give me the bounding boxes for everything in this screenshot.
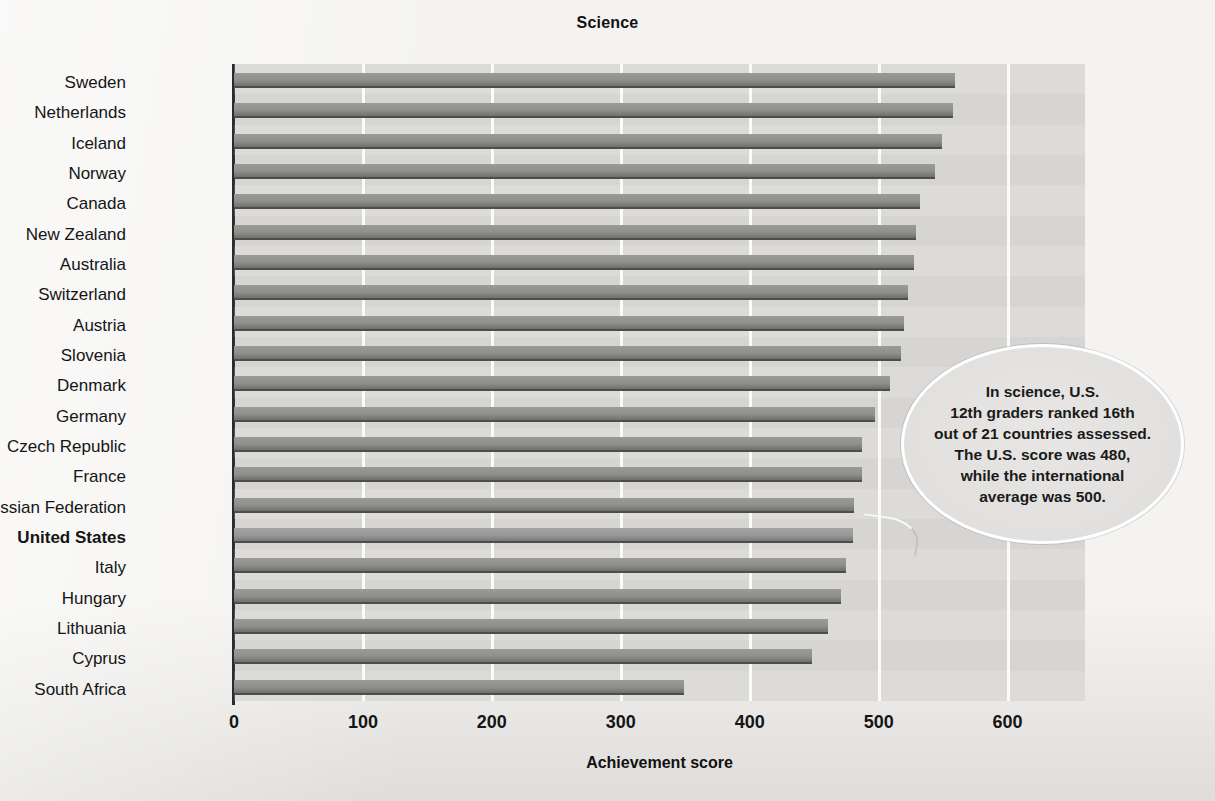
bar-iceland[interactable] [234, 134, 942, 149]
bar-lithuania[interactable] [234, 619, 828, 634]
bar-france[interactable] [234, 467, 862, 482]
bar-australia[interactable] [234, 255, 914, 270]
bar-netherlands[interactable] [234, 103, 953, 118]
y-axis-label-germany: Germany [0, 408, 126, 425]
bar-czech-republic[interactable] [234, 437, 862, 452]
chart-page: Science Achievement score In science, U.… [0, 0, 1215, 801]
x-axis-tick-500: 500 [839, 712, 919, 733]
bar-norway[interactable] [234, 164, 935, 179]
bar-canada[interactable] [234, 194, 920, 209]
y-axis-label-sweden: Sweden [0, 74, 126, 91]
us-callout-text: In science, U.S.12th graders ranked 16th… [916, 381, 1169, 507]
x-axis-tick-300: 300 [581, 712, 661, 733]
y-axis-label-italy: Italy [0, 559, 126, 576]
y-axis-label-denmark: Denmark [0, 377, 126, 394]
y-axis-label-norway: Norway [0, 165, 126, 182]
y-axis-label-netherlands: Netherlands [0, 104, 126, 121]
y-axis-label-new-zealand: New Zealand [0, 226, 126, 243]
y-axis-label-south-africa: South Africa [0, 681, 126, 698]
x-axis-tick-400: 400 [710, 712, 790, 733]
y-axis-label-austria: Austria [0, 317, 126, 334]
bar-italy[interactable] [234, 558, 846, 573]
bar-new-zealand[interactable] [234, 225, 916, 240]
x-axis-tick-200: 200 [452, 712, 532, 733]
chart-title: Science [0, 14, 1215, 32]
x-axis-tick-600: 600 [968, 712, 1048, 733]
us-callout-line: out of 21 countries assessed. [934, 423, 1151, 444]
y-axis-label-cyprus: Cyprus [0, 650, 126, 667]
bar-denmark[interactable] [234, 376, 890, 391]
y-axis-label-iceland: Iceland [0, 135, 126, 152]
us-callout-line: while the international [934, 465, 1151, 486]
us-callout-line: The U.S. score was 480, [934, 444, 1151, 465]
y-axis-label-switzerland: Switzerland [0, 286, 126, 303]
bar-slovenia[interactable] [234, 346, 901, 361]
bar-cyprus[interactable] [234, 649, 812, 664]
bar-germany[interactable] [234, 407, 875, 422]
y-axis-label-russian-federation: Russian Federation [0, 499, 126, 516]
bar-austria[interactable] [234, 316, 904, 331]
y-axis-label-united-states: United States [0, 529, 126, 546]
y-axis-label-slovenia: Slovenia [0, 347, 126, 364]
bar-russian-federation[interactable] [234, 498, 854, 513]
bar-south-africa[interactable] [234, 680, 684, 695]
us-callout-bubble: In science, U.S.12th graders ranked 16th… [901, 344, 1184, 544]
x-axis-tick-100: 100 [323, 712, 403, 733]
y-axis-label-czech-republic: Czech Republic [0, 438, 126, 455]
bar-hungary[interactable] [234, 589, 841, 604]
y-axis-label-hungary: Hungary [0, 590, 126, 607]
y-axis-label-france: France [0, 468, 126, 485]
x-axis-tick-0: 0 [194, 712, 274, 733]
bar-sweden[interactable] [234, 73, 955, 88]
y-axis-label-lithuania: Lithuania [0, 620, 126, 637]
us-callout-line: 12th graders ranked 16th [934, 402, 1151, 423]
y-axis-label-australia: Australia [0, 256, 126, 273]
us-callout-line: In science, U.S. [934, 381, 1151, 402]
x-axis-title: Achievement score [234, 754, 1085, 772]
bar-switzerland[interactable] [234, 285, 908, 300]
us-callout-line: average was 500. [934, 486, 1151, 507]
y-axis-label-canada: Canada [0, 195, 126, 212]
bar-united-states[interactable] [234, 528, 853, 543]
